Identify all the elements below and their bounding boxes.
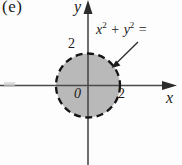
x-axis-tick-label-2: 2 [118, 87, 125, 101]
equation-equals-sign: = [134, 22, 147, 37]
x-axis-label: x [166, 90, 173, 106]
y-axis-label: y [74, 0, 81, 15]
y-axis-tick-label-2: 2 [68, 37, 75, 51]
scan-artifact [4, 82, 15, 87]
y-axis-arrowhead [84, 0, 93, 14]
figure-panel: (e) y x 2 2 0 x2 + y2 = [0, 0, 182, 165]
equation-plus-sign: + [107, 22, 124, 37]
part-label: (e) [2, 0, 22, 15]
annotation-leader-line [115, 42, 139, 65]
coordinate-plot [0, 0, 182, 165]
origin-label: 0 [74, 87, 81, 101]
circle-equation-annotation: x2 + y2 = [96, 23, 148, 37]
